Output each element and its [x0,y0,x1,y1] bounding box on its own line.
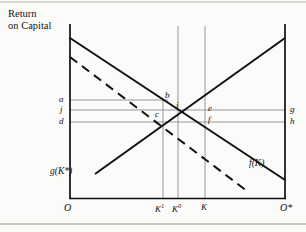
x-tick-k1-sup: 1 [161,202,164,209]
y-label-j: j [60,105,63,114]
y-label-h: h [290,117,295,126]
y-label-g: g [290,105,295,114]
point-label-i: i [176,101,179,110]
curve-label-g-kstar: g(K*) [50,167,72,177]
point-label-e: e [208,104,212,113]
point-label-b: b [165,91,170,100]
origin-left-label: O [64,203,71,213]
y-label-a: a [59,95,64,104]
x-tick-khat-circumflex: ^ [201,198,306,207]
x-tick-k1: K1 [155,203,164,214]
point-label-c: c [155,110,159,119]
curve-f-k-shifted-dashed [70,57,247,191]
point-label-f: f [208,115,211,124]
curve-label-f-k: f(K) [249,159,264,169]
x-tick-khat: ^K [201,203,306,212]
x-tick-k0-sup: 0 [178,202,181,209]
y-label-d: d [59,117,64,126]
figure-panel: Return on Capital a j d g h b i c e f g(… [0,0,306,232]
curve-g-kstar [95,38,285,174]
x-tick-k0: K0 [172,203,181,214]
